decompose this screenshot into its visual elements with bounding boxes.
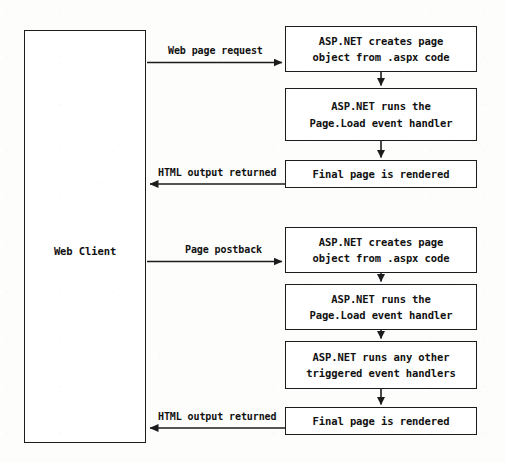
label-page-postback: Page postback [185,244,262,255]
postback-step-3-line1: ASP.NET runs any other [313,349,450,365]
web-client-box: Web Client [24,30,146,443]
request-step-2-line1: ASP.NET runs the [331,98,431,114]
postback-step-4-box: Final page is rendered [285,407,477,435]
request-step-1-line1: ASP.NET creates page [319,33,443,49]
postback-step-1-line2: object from .aspx code [313,250,450,266]
label-html-output-returned-postback: HTML output returned [158,411,276,422]
request-step-2-line2: Page.Load event handler [309,115,452,131]
postback-step-3-line2: triggered event handlers [306,365,455,381]
postback-step-1-box: ASP.NET creates page object from .aspx c… [285,227,477,273]
postback-step-2-box: ASP.NET runs the Page.Load event handler [285,284,477,330]
web-client-label: Web Client [25,243,145,259]
request-step-1-line2: object from .aspx code [313,49,450,65]
diagram-canvas: Web Client ASP.NET creates page object f… [0,0,506,462]
postback-step-4-line1: Final page is rendered [313,413,450,429]
request-step-1-box: ASP.NET creates page object from .aspx c… [285,26,477,72]
request-step-3-box: Final page is rendered [285,160,477,188]
request-step-2-box: ASP.NET runs the Page.Load event handler [285,88,477,141]
request-step-3-line1: Final page is rendered [313,166,450,182]
postback-step-3-box: ASP.NET runs any other triggered event h… [285,341,477,389]
label-html-output-returned-request: HTML output returned [158,167,276,178]
postback-step-1-line1: ASP.NET creates page [319,234,443,250]
postback-step-2-line2: Page.Load event handler [309,307,452,323]
label-web-page-request: Web page request [168,45,263,56]
postback-step-2-line1: ASP.NET runs the [331,291,431,307]
